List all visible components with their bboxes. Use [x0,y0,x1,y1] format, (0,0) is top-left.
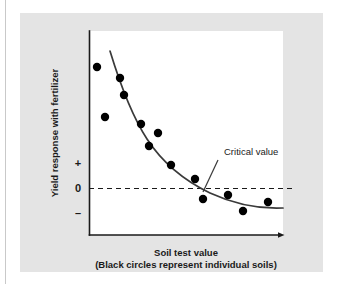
data-point [116,74,124,82]
y-axis-title: Yield response with fertilizer [49,68,60,197]
soil-test-response-chart: + 0 – Yield response with fertilizer Soi… [20,13,323,272]
y-tick-label-zero: 0 [75,182,81,194]
x-axis-subtitle: (Black circles represent individual soil… [95,259,277,270]
page-left-rule [5,0,6,284]
data-point [101,113,109,121]
data-point [120,91,128,99]
data-point [137,120,145,128]
y-tick-label-minus: – [75,207,81,219]
y-tick-label-plus: + [75,157,81,169]
data-point [264,198,272,206]
plot-area-background [89,31,283,235]
data-point [239,207,247,215]
data-point [191,175,199,183]
data-point [224,191,232,199]
data-point [154,129,162,137]
x-axis-title: Soil test value [154,247,218,258]
figure-card: + 0 – Yield response with fertilizer Soi… [20,13,323,272]
data-point [93,63,101,71]
critical-value-annotation: Critical value [224,146,278,157]
data-point [199,195,207,203]
data-point [145,142,153,150]
data-point [167,161,175,169]
